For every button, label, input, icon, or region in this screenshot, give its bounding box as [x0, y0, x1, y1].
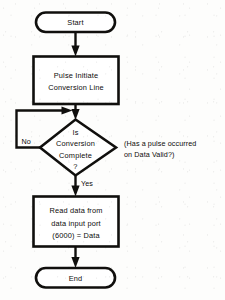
pulse-process-shape	[34, 57, 119, 105]
node-read-data: Read data from data input port (6000) = …	[34, 197, 119, 247]
arrow-head-icon	[71, 257, 79, 268]
arrow-head-icon	[62, 107, 73, 115]
pulse-label-line2: Conversion Line	[48, 83, 104, 92]
annotation-line1: (Has a pulse occurred	[124, 139, 196, 148]
node-start: Start	[36, 13, 115, 33]
decision-label-line1: Is	[72, 128, 78, 137]
connector-pulse-to-decision	[71, 104, 79, 120]
connector-decision-to-read	[71, 176, 79, 197]
connector-read-to-end	[71, 247, 79, 269]
node-end: End	[36, 268, 115, 288]
read-label-line3: (6000) = Data	[52, 231, 100, 240]
flowchart-diagram: Start Pulse Initiate Conversion Line No …	[0, 0, 225, 300]
arrow-head-icon	[71, 186, 79, 197]
connector-start-to-pulse	[71, 32, 79, 57]
decision-label-line4: ?	[73, 162, 77, 171]
read-label-line2: data input port	[51, 219, 101, 228]
node-pulse-initiate: Pulse Initiate Conversion Line	[34, 57, 119, 105]
read-label-line1: Read data from	[49, 206, 102, 215]
annotation-note: (Has a pulse occurred on Data Valid?)	[124, 139, 196, 159]
edge-label-no: No	[22, 137, 31, 146]
edge-label-yes: Yes	[81, 179, 93, 188]
node-decision: Is Conversion Complete ?	[40, 120, 116, 176]
start-label: Start	[67, 18, 83, 27]
arrow-head-icon	[71, 46, 79, 57]
decision-label-line3: Complete	[59, 151, 92, 160]
pulse-label-line1: Pulse Initiate	[54, 71, 98, 80]
decision-label-line2: Conversion	[56, 139, 95, 148]
annotation-line2: on Data Valid?)	[124, 150, 175, 159]
end-label: End	[69, 274, 83, 283]
flowchart-canvas: Start Pulse Initiate Conversion Line No …	[0, 0, 225, 300]
